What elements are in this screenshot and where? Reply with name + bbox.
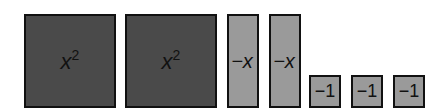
tile-label: −x (273, 50, 295, 73)
tile-label: −1 (399, 81, 420, 102)
tile-label: −1 (315, 81, 336, 102)
x-squared-tile: x2 (125, 14, 217, 108)
tile-label: x2 (162, 47, 181, 75)
neg-unit-tile: −1 (351, 75, 383, 108)
neg-unit-tile: −1 (309, 75, 341, 108)
neg-x-tile: −x (227, 14, 259, 108)
neg-unit-tile: −1 (393, 75, 425, 108)
tile-label: x2 (61, 47, 80, 75)
tile-label: −x (231, 50, 253, 73)
neg-x-tile: −x (269, 14, 301, 108)
tile-label: −1 (357, 81, 378, 102)
x-squared-tile: x2 (24, 14, 116, 108)
